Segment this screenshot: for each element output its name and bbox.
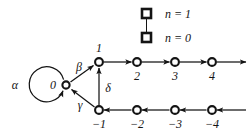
node-label-4: 4: [209, 70, 215, 82]
edge-self-loop-zero: [29, 67, 63, 102]
legend-square-icon-n1: [142, 9, 151, 18]
node-label-minus-4: −4: [205, 118, 219, 130]
node-2[interactable]: [133, 58, 141, 66]
figure-canvas: n = 1 n = 0 α β γ δ 0 1 2 3 4 −1 −2 −3 −…: [0, 0, 251, 140]
node-label-minus-1: −1: [92, 118, 106, 130]
node-minus-3[interactable]: [171, 106, 179, 114]
node-label-3: 3: [172, 70, 178, 82]
node-3[interactable]: [171, 58, 179, 66]
edge-label-beta: β: [76, 61, 82, 73]
node-label-2: 2: [134, 70, 140, 82]
legend-label-n0: n = 0: [165, 32, 191, 44]
edge-label-gamma: γ: [78, 99, 83, 111]
edge-minus-one-to-zero: [72, 90, 95, 108]
node-minus-4[interactable]: [208, 106, 216, 114]
node-1[interactable]: [95, 58, 103, 66]
legend-square-icon-n0: [142, 33, 151, 42]
node-minus-1[interactable]: [95, 106, 103, 114]
node-4[interactable]: [208, 58, 216, 66]
node-label-minus-2: −2: [130, 118, 144, 130]
legend-label-n1: n = 1: [165, 8, 191, 20]
edge-label-delta: δ: [105, 82, 111, 94]
node-label-1: 1: [96, 42, 102, 54]
edge-label-alpha: α: [12, 79, 18, 91]
node-label-minus-3: −3: [168, 118, 182, 130]
node-minus-2[interactable]: [133, 106, 141, 114]
node-label-0: 0: [50, 79, 56, 91]
node-zero[interactable]: [62, 81, 69, 88]
